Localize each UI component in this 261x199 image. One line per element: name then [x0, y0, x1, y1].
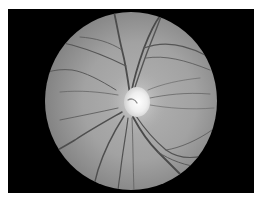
- fundus-image: [0, 0, 261, 199]
- fundus-svg: [0, 0, 261, 199]
